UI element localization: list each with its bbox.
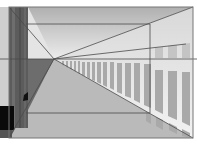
- perspective-diagram: [0, 0, 197, 144]
- black-block: [0, 106, 14, 130]
- corridor-perspective-drawing: [0, 0, 197, 144]
